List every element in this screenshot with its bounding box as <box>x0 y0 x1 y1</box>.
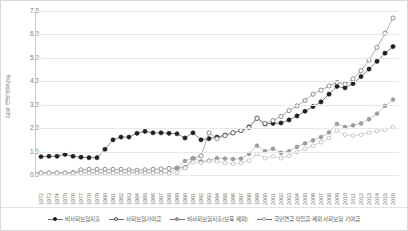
data-point <box>191 156 195 160</box>
data-point <box>111 138 115 142</box>
data-point <box>359 133 363 137</box>
data-point <box>343 82 347 86</box>
legend-label: 비사회보험지출(보육 제외) <box>187 215 247 223</box>
data-point <box>159 167 163 171</box>
x-tick-label: 1983 <box>126 193 132 205</box>
x-tick-label: 1995 <box>222 193 228 205</box>
data-point <box>231 131 235 135</box>
x-tick-label: 1990 <box>182 193 188 205</box>
legend-marker-icon <box>257 216 272 223</box>
x-tick-label: 1975 <box>62 193 68 205</box>
gridline <box>35 34 399 35</box>
x-tick-label: 2015 <box>382 193 388 205</box>
x-tick-label: 2007 <box>318 193 324 205</box>
data-point <box>359 75 363 79</box>
legend-item-2[interactable]: 사회보험기여금 <box>109 215 161 223</box>
data-point <box>343 133 347 137</box>
legend-item-3[interactable]: 비사회보험지출(보육 제외) <box>170 215 247 223</box>
series-filled-circle <box>39 45 395 160</box>
data-point <box>183 136 187 140</box>
data-point <box>319 135 323 139</box>
data-point <box>327 92 331 96</box>
x-tick-label: 2004 <box>294 193 300 205</box>
data-point <box>295 145 299 149</box>
legend-dot-icon <box>175 217 179 221</box>
x-tick-label: 1976 <box>70 193 76 205</box>
legend-item-1[interactable]: 비사회보험지출 <box>48 215 100 223</box>
data-point <box>319 88 323 92</box>
gridline <box>35 105 399 106</box>
data-point <box>279 156 283 160</box>
data-point <box>255 116 259 120</box>
x-tick-label: 2001 <box>270 193 276 205</box>
data-point <box>263 156 267 160</box>
x-tick-label: 1998 <box>246 193 252 205</box>
legend-item-4[interactable]: 국민연금 적립금 제외 사회보험 기여금 <box>257 215 360 223</box>
data-point <box>311 92 315 96</box>
legend-label: 국민연금 적립금 제외 사회보험 기여금 <box>274 215 360 223</box>
data-point <box>303 98 307 102</box>
legend-dot-icon <box>262 217 266 221</box>
x-tick-label: 2014 <box>374 193 380 205</box>
data-point <box>271 154 275 158</box>
gridline <box>35 11 399 12</box>
data-point <box>215 137 219 141</box>
x-tick-label: 1981 <box>110 193 116 205</box>
x-tick-label: 2010 <box>342 193 348 205</box>
data-point <box>223 161 227 165</box>
data-point <box>351 123 355 127</box>
data-point <box>151 131 155 135</box>
data-point <box>303 109 307 113</box>
data-point <box>63 152 67 156</box>
x-tick-label: 2012 <box>358 193 364 205</box>
data-point <box>375 129 379 133</box>
data-point <box>279 114 283 118</box>
x-tick-label: 2013 <box>366 193 372 205</box>
data-point <box>375 59 379 63</box>
data-point <box>143 129 147 133</box>
data-point <box>79 155 83 159</box>
legend-marker-icon <box>48 216 63 223</box>
x-tick-label: 1988 <box>166 193 172 205</box>
data-point <box>271 119 275 123</box>
data-point <box>183 166 187 170</box>
data-point <box>359 69 363 73</box>
x-tick-label: 1999 <box>254 193 260 205</box>
data-point <box>191 131 195 135</box>
data-point <box>311 138 315 142</box>
x-tick-label: 2002 <box>278 193 284 205</box>
data-point <box>167 131 171 135</box>
data-point <box>287 108 291 112</box>
x-tick-label: 2016 <box>390 193 396 205</box>
data-point <box>55 154 59 158</box>
data-point <box>223 134 227 138</box>
x-tick-label: 1977 <box>78 193 84 205</box>
data-point <box>95 156 99 160</box>
x-tick-label: 1986 <box>150 193 156 205</box>
x-tick-label: 1974 <box>54 193 60 205</box>
data-point <box>319 100 323 104</box>
data-point <box>319 140 323 144</box>
x-tick-label: 2008 <box>326 193 332 205</box>
gridline <box>35 58 399 59</box>
x-tick-label: 2003 <box>286 193 292 205</box>
data-point <box>375 45 379 49</box>
data-point <box>175 171 179 175</box>
data-point <box>183 159 187 163</box>
data-point <box>199 154 203 158</box>
x-tick-label: 1996 <box>230 193 236 205</box>
data-point <box>335 129 339 133</box>
x-tick-label: 1984 <box>134 193 140 205</box>
data-point <box>87 156 91 160</box>
data-point <box>199 161 203 165</box>
data-point <box>247 159 251 163</box>
data-point <box>287 154 291 158</box>
data-point <box>159 131 163 135</box>
data-point <box>327 130 331 134</box>
data-point <box>175 167 179 171</box>
legend-label: 사회보험기여금 <box>126 215 161 223</box>
x-tick-label: 1997 <box>238 193 244 205</box>
x-tick-label: 1979 <box>94 193 100 205</box>
gridline <box>35 128 399 129</box>
chart-container: GDP 대비 비율 (%) 0.01.02.03.04.05.06.07.0 1… <box>0 0 408 231</box>
